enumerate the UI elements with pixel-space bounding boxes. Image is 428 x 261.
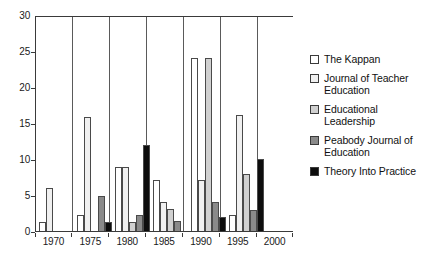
bar-group [188,17,226,231]
bar [122,167,129,231]
x-tick-label: 1975 [72,236,109,254]
legend-label: The Kappan [324,53,380,66]
bar [77,215,84,231]
bar [136,215,143,231]
bar [250,210,257,231]
bar [84,117,91,231]
bar [105,222,112,231]
legend-swatch-icon [310,167,319,176]
x-axis: 1970 1975 1980 1985 1990 1995 2000 [35,236,293,254]
y-tick-label: 0 [2,227,30,237]
y-tick-label: 20 [2,83,30,93]
bar [212,202,219,231]
bar [167,209,174,231]
legend-swatch-icon [310,55,319,64]
y-tick-label: 30 [2,11,30,21]
legend-label: Peabody Journal of Education [324,134,428,159]
bar-group [226,17,264,231]
x-tick-label: 1970 [35,236,72,254]
x-tick-label: 1985 [146,236,183,254]
bar [205,58,212,231]
bar-chart: 30 25 20 15 10 5 0 1970 1975 1980 1985 1… [0,0,428,261]
bar [153,180,160,231]
bar [129,222,136,231]
bar [115,167,122,231]
legend-label: Educational Leadership [324,103,428,128]
legend-item[interactable]: Peabody Journal of Education [310,134,428,159]
bar-group [112,17,150,231]
bar [243,174,250,231]
bar [160,202,167,231]
legend-label: Journal of Teacher Education [324,72,428,97]
x-tick-label: 2000 [256,236,293,254]
bar-groups [36,17,293,231]
bar-group [264,17,302,231]
bar [257,159,264,231]
chart-legend: The KappanJournal of Teacher EducationEd… [310,53,428,183]
legend-swatch-icon [310,105,319,114]
legend-swatch-icon [310,136,319,145]
bar [236,115,243,231]
legend-item[interactable]: The Kappan [310,53,428,66]
y-tick-label: 5 [2,191,30,201]
bar [143,145,150,231]
y-tick-label: 10 [2,155,30,165]
bar [191,58,198,231]
legend-label: Theory Into Practice [324,165,416,178]
x-tick-label: 1995 [219,236,256,254]
legend-swatch-icon [310,74,319,83]
bar [39,222,46,231]
y-axis: 30 25 20 15 10 5 0 [0,0,30,261]
bar [229,215,236,231]
bar [219,217,226,231]
y-tick-label: 25 [2,47,30,57]
bar-group [74,17,112,231]
y-tick-label: 15 [2,119,30,129]
bar [98,196,105,231]
x-tick-label: 1990 [182,236,219,254]
legend-item[interactable]: Journal of Teacher Education [310,72,428,97]
plot-area [35,16,293,232]
legend-item[interactable]: Educational Leadership [310,103,428,128]
legend-item[interactable]: Theory Into Practice [310,165,428,178]
bar [174,221,181,231]
x-tick-label: 1980 [109,236,146,254]
bar [198,180,205,231]
bar-group [36,17,74,231]
bar [46,188,53,231]
bar-group [150,17,188,231]
